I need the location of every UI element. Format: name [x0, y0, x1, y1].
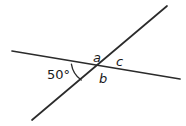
geometry-diagram: a c b 50°	[0, 0, 186, 126]
angle-label-a: a	[93, 50, 101, 65]
angle-label-c: c	[116, 54, 123, 69]
angle-measure-50-label: 50°	[47, 67, 70, 82]
angle-label-b: b	[99, 71, 107, 86]
geometry-canvas: a c b 50°	[0, 0, 186, 126]
fifty-degree-arc	[71, 64, 81, 80]
